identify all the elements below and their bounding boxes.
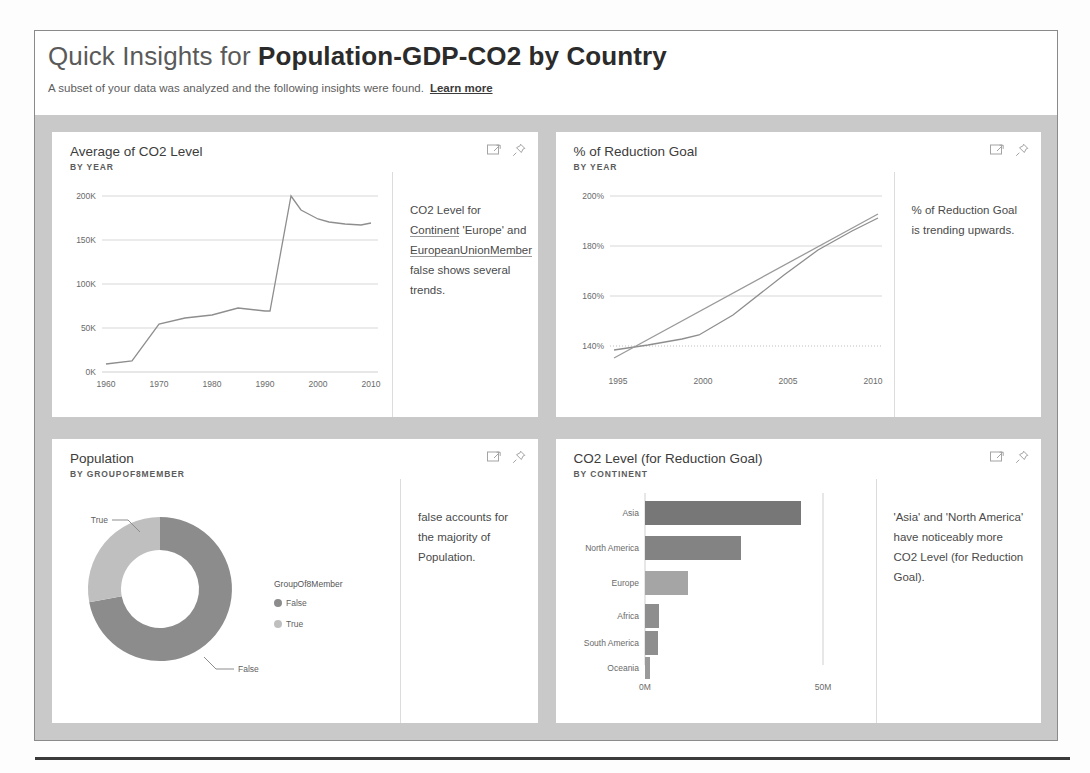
pin-icon[interactable] bbox=[1015, 450, 1029, 464]
svg-text:100K: 100K bbox=[76, 279, 96, 289]
card-header: CO2 Level (for Reduction Goal) BY CONTIN… bbox=[556, 439, 1042, 479]
bar-south-america[interactable] bbox=[645, 631, 658, 655]
insight-text-pane: false accounts for the majority of Popul… bbox=[400, 479, 538, 724]
bar-label-europe: Europe bbox=[611, 578, 639, 588]
page-title-strong: Population-GDP-CO2 by Country bbox=[258, 41, 667, 71]
insight-field-eu-member: EuropeanUnionMember bbox=[410, 244, 532, 257]
card-title: Average of CO2 Level bbox=[70, 144, 526, 160]
card-actions bbox=[487, 143, 526, 157]
line-chart-reduction-goal[interactable]: 200% 180% 160% 140% 1995 2000 2005 2010 bbox=[556, 172, 894, 417]
insights-frame: Quick Insights for Population-GDP-CO2 by… bbox=[34, 30, 1058, 741]
insight-text-part-0: CO2 Level for bbox=[410, 204, 481, 216]
svg-text:160%: 160% bbox=[582, 291, 604, 301]
donut-callout-true: True bbox=[91, 515, 108, 525]
page-title-light: Quick Insights for bbox=[48, 41, 258, 71]
line-chart-co2-level[interactable]: 200K 150K 100K 50K 0K 1960 1970 1980 199… bbox=[52, 172, 392, 417]
card-subtitle: BY CONTINENT bbox=[574, 469, 1030, 479]
insight-text-part-4: false shows several trends. bbox=[410, 264, 510, 296]
xtick-50m: 50M bbox=[814, 682, 831, 692]
bar-label-asia: Asia bbox=[622, 508, 639, 518]
svg-text:2010: 2010 bbox=[362, 379, 381, 389]
insight-card-co2-level[interactable]: Average of CO2 Level BY YEAR bbox=[52, 132, 538, 417]
insight-field-continent: Continent bbox=[410, 224, 459, 237]
card-body: Asia North America Europe Africa South A… bbox=[556, 479, 1042, 724]
svg-text:150K: 150K bbox=[76, 235, 96, 245]
svg-text:2000: 2000 bbox=[693, 376, 712, 386]
bar-label-oceania: Oceania bbox=[607, 663, 639, 673]
pin-icon[interactable] bbox=[512, 450, 526, 464]
card-body: 200K 150K 100K 50K 0K 1960 1970 1980 199… bbox=[52, 172, 538, 417]
bar-africa[interactable] bbox=[645, 604, 659, 628]
page-title: Quick Insights for Population-GDP-CO2 by… bbox=[48, 41, 1057, 72]
card-title: Population bbox=[70, 451, 526, 467]
card-subtitle: BY YEAR bbox=[70, 162, 526, 172]
card-actions bbox=[487, 450, 526, 464]
svg-text:50K: 50K bbox=[81, 323, 96, 333]
donut-chart-population[interactable]: True False GroupOf8Member False True bbox=[52, 479, 400, 724]
focus-mode-icon[interactable] bbox=[990, 450, 1004, 464]
card-title: % of Reduction Goal bbox=[574, 144, 1030, 160]
insight-text-pane: CO2 Level for Continent 'Europe' and Eur… bbox=[392, 172, 538, 417]
quick-insights-page: Quick Insights for Population-GDP-CO2 by… bbox=[0, 0, 1090, 773]
insight-card-co2-reduction-goal[interactable]: CO2 Level (for Reduction Goal) BY CONTIN… bbox=[556, 439, 1042, 724]
insights-subtitle-text: A subset of your data was analyzed and t… bbox=[48, 82, 424, 94]
svg-text:180%: 180% bbox=[582, 241, 604, 251]
svg-text:1990: 1990 bbox=[256, 379, 275, 389]
svg-text:1995: 1995 bbox=[608, 376, 627, 386]
insight-card-population[interactable]: Population BY GROUPOF8MEMBER bbox=[52, 439, 538, 724]
insights-header: Quick Insights for Population-GDP-CO2 by… bbox=[35, 31, 1057, 115]
focus-mode-icon[interactable] bbox=[990, 143, 1004, 157]
insight-text: % of Reduction Goal is trending upwards. bbox=[912, 204, 1017, 236]
focus-mode-icon[interactable] bbox=[487, 450, 501, 464]
card-subtitle: BY GROUPOF8MEMBER bbox=[70, 469, 526, 479]
svg-text:2000: 2000 bbox=[309, 379, 328, 389]
svg-text:200%: 200% bbox=[582, 191, 604, 201]
svg-text:1970: 1970 bbox=[150, 379, 169, 389]
svg-text:1980: 1980 bbox=[203, 379, 222, 389]
card-subtitle: BY YEAR bbox=[574, 162, 1030, 172]
insight-text-pane: 'Asia' and 'North America' have noticeab… bbox=[876, 479, 1042, 724]
legend-title: GroupOf8Member bbox=[274, 579, 343, 589]
card-body: True False GroupOf8Member False True bbox=[52, 479, 538, 724]
bar-north-america[interactable] bbox=[645, 536, 741, 560]
learn-more-link[interactable]: Learn more bbox=[430, 82, 493, 94]
bar-label-africa: Africa bbox=[617, 611, 639, 621]
page-bottom-rule bbox=[35, 757, 1070, 760]
legend-label-true: True bbox=[286, 619, 303, 629]
svg-text:140%: 140% bbox=[582, 341, 604, 351]
svg-text:200K: 200K bbox=[76, 191, 96, 201]
insights-subtitle: A subset of your data was analyzed and t… bbox=[48, 82, 1057, 94]
svg-text:0K: 0K bbox=[86, 367, 97, 377]
card-header: Population BY GROUPOF8MEMBER bbox=[52, 439, 538, 479]
bar-chart-co2-by-continent[interactable]: Asia North America Europe Africa South A… bbox=[556, 479, 876, 724]
pin-icon[interactable] bbox=[512, 143, 526, 157]
bar-europe[interactable] bbox=[645, 571, 688, 595]
focus-mode-icon[interactable] bbox=[487, 143, 501, 157]
card-header: % of Reduction Goal BY YEAR bbox=[556, 132, 1042, 172]
card-title: CO2 Level (for Reduction Goal) bbox=[574, 451, 1030, 467]
insight-card-reduction-goal[interactable]: % of Reduction Goal BY YEAR bbox=[556, 132, 1042, 417]
donut-callout-false: False bbox=[238, 664, 259, 674]
insight-cards-grid: Average of CO2 Level BY YEAR bbox=[35, 115, 1057, 740]
bar-asia[interactable] bbox=[645, 501, 801, 525]
pin-icon[interactable] bbox=[1015, 143, 1029, 157]
card-header: Average of CO2 Level BY YEAR bbox=[52, 132, 538, 172]
bar-oceania[interactable] bbox=[645, 657, 650, 679]
xtick-0m: 0M bbox=[639, 682, 651, 692]
legend-swatch-true bbox=[274, 620, 282, 628]
card-body: 200% 180% 160% 140% 1995 2000 2005 2010 bbox=[556, 172, 1042, 417]
legend-label-false: False bbox=[286, 598, 307, 608]
card-actions bbox=[990, 143, 1029, 157]
svg-text:2005: 2005 bbox=[778, 376, 797, 386]
insight-text-pane: % of Reduction Goal is trending upwards. bbox=[894, 172, 1042, 417]
insight-text: 'Asia' and 'North America' have noticeab… bbox=[894, 511, 1024, 583]
bar-label-south-america: South America bbox=[583, 638, 639, 648]
donut-slice-true[interactable] bbox=[88, 517, 160, 602]
svg-text:1960: 1960 bbox=[97, 379, 116, 389]
insight-text-part-2: 'Europe' and bbox=[459, 224, 526, 236]
legend-swatch-false bbox=[274, 599, 282, 607]
svg-text:2010: 2010 bbox=[863, 376, 882, 386]
bar-label-north-america: North America bbox=[585, 543, 639, 553]
insight-text: false accounts for the majority of Popul… bbox=[418, 511, 508, 563]
card-actions bbox=[990, 450, 1029, 464]
